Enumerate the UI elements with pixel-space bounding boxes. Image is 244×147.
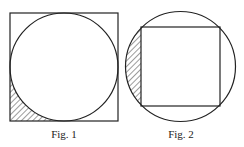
- inscribed-circle: [10, 13, 118, 121]
- figure-1: [10, 13, 118, 121]
- figure-2-caption: Fig. 2: [151, 128, 211, 140]
- diagram-canvas: [0, 0, 244, 147]
- hatched-corner-region: [10, 67, 64, 121]
- figure-2: [126, 12, 236, 122]
- figure-1-caption: Fig. 1: [34, 128, 94, 140]
- inscribed-square: [141, 27, 220, 106]
